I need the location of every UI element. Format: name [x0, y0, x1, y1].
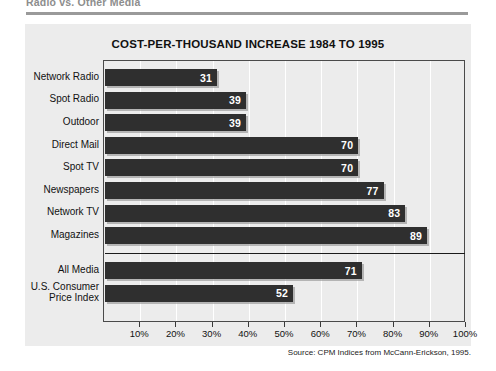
- x-tick-label: 30%: [202, 328, 221, 339]
- category-axis-labels: Network RadioSpot RadioOutdoorDirect Mai…: [25, 60, 99, 322]
- bar-value-label: 77: [366, 185, 378, 196]
- x-axis-labels: 10%20%30%40%50%60%70%80%90%100%: [25, 328, 471, 344]
- category-label-line: Direct Mail: [25, 139, 99, 151]
- category-label: Newspapers: [25, 184, 99, 196]
- bar-value-label: 31: [200, 72, 212, 83]
- category-label-line: Price Index: [25, 292, 99, 304]
- x-tick-label: 90%: [419, 328, 438, 339]
- x-tick-label: 60%: [311, 328, 330, 339]
- x-tick: [356, 322, 357, 327]
- bar-value-label: 39: [229, 95, 241, 106]
- category-label: Network Radio: [25, 71, 99, 83]
- category-label-line: All Media: [25, 264, 99, 276]
- category-label-line: Magazines: [25, 229, 99, 241]
- bar-value-label: 39: [229, 117, 241, 128]
- bar-value-label: 70: [341, 140, 353, 151]
- x-tick: [429, 322, 430, 327]
- x-tick-label: 80%: [383, 328, 402, 339]
- category-label: Network TV: [25, 206, 99, 218]
- x-tick: [465, 322, 466, 327]
- bar[interactable]: 89: [105, 227, 427, 244]
- x-tick-label: 50%: [274, 328, 293, 339]
- bar-series: 31393970707783897152: [104, 61, 464, 321]
- bar[interactable]: 83: [105, 205, 405, 222]
- bar[interactable]: 70: [105, 159, 358, 176]
- x-tick: [212, 322, 213, 327]
- bar[interactable]: 39: [105, 114, 246, 131]
- category-label: All Media: [25, 264, 99, 276]
- x-tick: [175, 322, 176, 327]
- category-label-line: Network Radio: [25, 71, 99, 83]
- page-caption: Radio vs. Other Media: [26, 0, 286, 8]
- source-note: Source: CPM Indices from McCann-Erickson…: [0, 348, 471, 357]
- bar[interactable]: 39: [105, 92, 246, 109]
- x-tick-label: 100%: [453, 328, 477, 339]
- x-tick: [393, 322, 394, 327]
- category-label: Spot Radio: [25, 93, 99, 105]
- bar[interactable]: 71: [105, 262, 362, 279]
- header-rule: [26, 12, 468, 15]
- x-tick: [139, 322, 140, 327]
- category-label: Direct Mail: [25, 139, 99, 151]
- category-label: Magazines: [25, 229, 99, 241]
- x-tick: [248, 322, 249, 327]
- plot-area: 31393970707783897152: [103, 60, 465, 322]
- x-tick: [284, 322, 285, 327]
- category-label-line: U.S. Consumer: [25, 281, 99, 293]
- x-tick-label: 10%: [130, 328, 149, 339]
- bar-value-label: 70: [341, 163, 353, 174]
- x-tick-label: 70%: [347, 328, 366, 339]
- chart-panel: COST-PER-THOUSAND INCREASE 1984 TO 1995 …: [25, 24, 471, 346]
- x-tick-label: 40%: [238, 328, 257, 339]
- category-label-line: Spot TV: [25, 161, 99, 173]
- bar[interactable]: 31: [105, 69, 217, 86]
- bar[interactable]: 77: [105, 182, 384, 199]
- category-label: Spot TV: [25, 161, 99, 173]
- bar[interactable]: 52: [105, 285, 293, 302]
- category-label: Outdoor: [25, 116, 99, 128]
- chart-title: COST-PER-THOUSAND INCREASE 1984 TO 1995: [25, 38, 471, 50]
- bar-value-label: 52: [276, 288, 288, 299]
- bar-value-label: 71: [345, 265, 357, 276]
- bar-value-label: 89: [410, 230, 422, 241]
- bar[interactable]: 70: [105, 137, 358, 154]
- group-separator: [105, 253, 465, 254]
- category-label-line: Network TV: [25, 206, 99, 218]
- x-tick-label: 20%: [166, 328, 185, 339]
- category-label-line: Spot Radio: [25, 93, 99, 105]
- category-label-line: Newspapers: [25, 184, 99, 196]
- x-tick: [320, 322, 321, 327]
- category-label-line: Outdoor: [25, 116, 99, 128]
- category-label: U.S. ConsumerPrice Index: [25, 281, 99, 304]
- bar-value-label: 83: [388, 208, 400, 219]
